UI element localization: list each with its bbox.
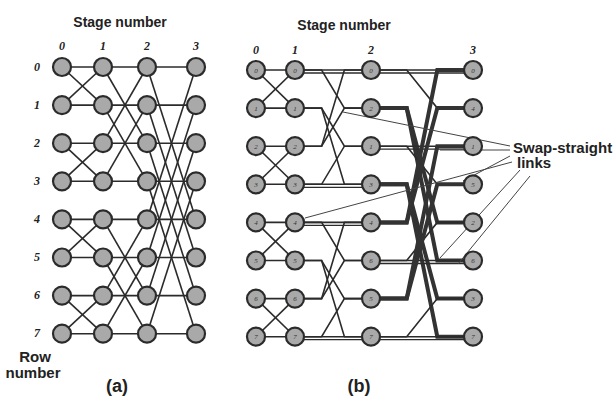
switch-node (138, 134, 156, 152)
switch-node-label: 1 (471, 143, 475, 151)
figure-a-butterfly: Stage number 0 1 2 3 0 1 2 3 4 5 6 7 Row… (5, 14, 205, 396)
switch-node-label: 2 (471, 219, 475, 227)
cross-link (371, 184, 473, 298)
switch-node (94, 134, 112, 152)
switch-node-label: 0 (254, 67, 258, 75)
figure-b-title: Stage number (297, 17, 391, 33)
switch-node (53, 172, 71, 190)
switch-node-label: 6 (369, 257, 373, 265)
switch-node-label: 4 (471, 105, 475, 113)
row-label: 7 (34, 326, 41, 340)
figure-a-nodes (53, 58, 205, 343)
switch-node-label: 0 (471, 67, 475, 75)
stage-label: 1 (100, 39, 106, 53)
switch-node (53, 249, 71, 267)
swap-straight-annotation: links (517, 154, 551, 171)
cross-link (295, 222, 371, 260)
switch-node (94, 58, 112, 76)
switch-node (187, 287, 205, 305)
switch-node-label: 5 (369, 295, 373, 303)
switch-node-label: 0 (293, 67, 297, 75)
switch-node-label: 2 (293, 143, 297, 151)
row-label: 6 (34, 288, 40, 302)
switch-node (138, 249, 156, 267)
switch-node-label: 5 (293, 257, 297, 265)
switch-node-label: 3 (253, 181, 258, 189)
figure-b-caption: (b) (348, 376, 371, 396)
switch-node-label: 3 (368, 181, 373, 189)
switch-node-label: 0 (369, 67, 373, 75)
cross-link (295, 70, 371, 108)
switch-node (187, 325, 205, 343)
stage-label: 3 (469, 43, 476, 57)
switch-node (138, 172, 156, 190)
switch-node-label: 7 (293, 333, 297, 341)
switch-node (94, 325, 112, 343)
switch-node (138, 287, 156, 305)
switch-node (187, 134, 205, 152)
switch-node-label: 7 (369, 333, 373, 341)
figure-a-stage-labels: 0 1 2 3 (59, 39, 199, 53)
cross-link (371, 108, 473, 222)
switch-node-label: 1 (369, 143, 373, 151)
switch-node (138, 58, 156, 76)
switch-node-label: 6 (293, 295, 297, 303)
switch-node (53, 325, 71, 343)
stage-label: 0 (253, 43, 259, 57)
stage-label: 0 (59, 39, 65, 53)
row-label: 0 (34, 60, 40, 74)
stage-label: 1 (292, 43, 298, 57)
row-label: 3 (33, 174, 40, 188)
row-label: 4 (33, 212, 40, 226)
row-label: 5 (34, 250, 40, 264)
switch-node (53, 134, 71, 152)
switch-node-label: 1 (254, 105, 258, 113)
switch-node (53, 96, 71, 114)
figure-a-caption: (a) (106, 376, 128, 396)
switch-node (187, 210, 205, 228)
figure-a-links (62, 67, 196, 334)
switch-node (53, 210, 71, 228)
stage-label: 2 (143, 39, 150, 53)
switch-node-label: 2 (254, 143, 258, 151)
cross-link (371, 70, 473, 108)
row-label: 2 (33, 136, 40, 150)
switch-node-label: 6 (471, 257, 475, 265)
switch-node (187, 172, 205, 190)
figure-a-title: Stage number (73, 14, 167, 30)
figure-b-nodes: 01234567012345670213465704152637 (247, 61, 482, 346)
cross-link (295, 299, 371, 337)
switch-node-label: 7 (471, 333, 475, 341)
switch-node-label: 4 (293, 219, 297, 227)
stage-label: 2 (367, 43, 374, 57)
butterfly-network-diagram: Stage number 0 1 2 3 0 1 2 3 4 5 6 7 Row… (0, 0, 616, 400)
switch-node-label: 4 (254, 219, 258, 227)
figure-b-swap-straight: Stage number 0 1 2 3 0123456701234567021… (247, 17, 612, 396)
switch-node (53, 287, 71, 305)
switch-node (138, 210, 156, 228)
cross-link (295, 108, 371, 146)
switch-node (53, 58, 71, 76)
row-axis-label: number (5, 364, 60, 381)
row-label: 1 (34, 98, 40, 112)
figure-a-row-labels: 0 1 2 3 4 5 6 7 (33, 60, 41, 340)
switch-node-label: 6 (254, 295, 258, 303)
switch-node (94, 96, 112, 114)
switch-node-label: 3 (470, 295, 475, 303)
cross-link (371, 299, 473, 337)
row-axis-label: Row (19, 348, 51, 365)
switch-node (187, 96, 205, 114)
stage-label: 3 (192, 39, 199, 53)
switch-node-label: 4 (369, 219, 373, 227)
switch-node (94, 287, 112, 305)
switch-node-label: 3 (292, 181, 297, 189)
switch-node (187, 249, 205, 267)
switch-node-label: 5 (471, 181, 475, 189)
switch-node-label: 1 (293, 105, 297, 113)
cross-link (295, 146, 371, 184)
switch-node (138, 325, 156, 343)
switch-node-label: 7 (254, 333, 258, 341)
switch-node (187, 58, 205, 76)
switch-node (94, 210, 112, 228)
switch-node (94, 172, 112, 190)
